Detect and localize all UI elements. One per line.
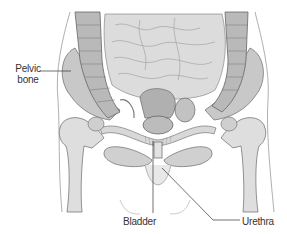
pelvis-drawing (0, 0, 287, 234)
urethra-label: Urethra (242, 216, 274, 227)
pelvic-bone-label: Pelvic bone (13, 63, 43, 85)
pelvic-bone-label-line1: Pelvic (13, 63, 43, 74)
bladder-label: Bladder (123, 216, 156, 227)
urethra-leader (162, 168, 240, 220)
pelvic-bone-label-line2: bone (13, 74, 43, 85)
pelvis-illustration: Pelvic bone Bladder Urethra (0, 0, 287, 234)
